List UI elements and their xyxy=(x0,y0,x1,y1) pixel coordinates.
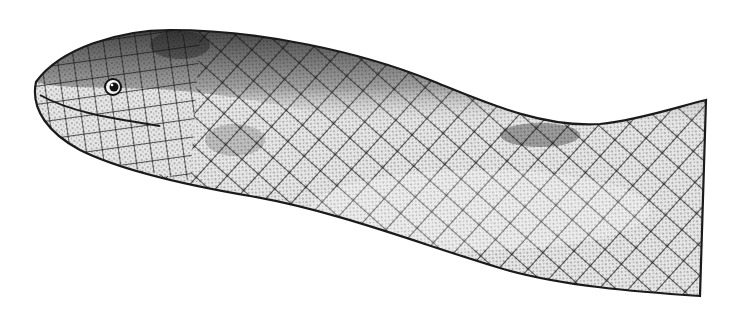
eye-icon xyxy=(105,79,121,95)
snake-illustration xyxy=(0,0,732,323)
illustration-canvas xyxy=(0,0,732,323)
